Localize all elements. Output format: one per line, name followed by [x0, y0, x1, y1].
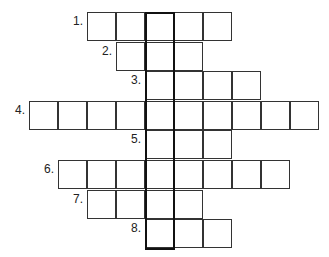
grid-cell[interactable] — [203, 71, 232, 100]
grid-cell[interactable] — [116, 42, 145, 71]
grid-cell[interactable] — [87, 190, 116, 219]
grid-cell[interactable] — [145, 190, 174, 219]
grid-cell[interactable] — [174, 219, 203, 248]
grid-cell[interactable] — [87, 101, 116, 130]
grid-cell[interactable] — [232, 101, 261, 130]
grid-cell[interactable] — [58, 101, 87, 130]
grid-cell[interactable] — [203, 219, 232, 248]
grid-cell[interactable] — [116, 101, 145, 130]
crossword-grid: 1.2.3.4.5.6.7.8. — [0, 0, 329, 257]
grid-cell[interactable] — [203, 12, 232, 41]
grid-cell[interactable] — [145, 71, 174, 100]
grid-cell[interactable] — [29, 101, 58, 130]
grid-cell[interactable] — [174, 12, 203, 41]
clue-number: 8. — [119, 221, 141, 235]
grid-cell[interactable] — [145, 101, 174, 130]
grid-cell[interactable] — [145, 160, 174, 189]
grid-cell[interactable] — [145, 12, 174, 41]
clue-number: 6. — [32, 162, 54, 176]
clue-number: 2. — [90, 44, 112, 58]
grid-cell[interactable] — [290, 101, 319, 130]
grid-cell[interactable] — [174, 130, 203, 159]
grid-cell[interactable] — [232, 160, 261, 189]
grid-cell[interactable] — [87, 160, 116, 189]
clue-number: 3. — [119, 73, 141, 87]
grid-cell[interactable] — [203, 160, 232, 189]
grid-cell[interactable] — [203, 101, 232, 130]
grid-cell[interactable] — [203, 130, 232, 159]
grid-cell[interactable] — [232, 71, 261, 100]
grid-cell[interactable] — [58, 160, 87, 189]
grid-cell[interactable] — [116, 12, 145, 41]
grid-cell[interactable] — [174, 101, 203, 130]
grid-cell[interactable] — [261, 160, 290, 189]
grid-cell[interactable] — [174, 190, 203, 219]
clue-number: 5. — [119, 132, 141, 146]
clue-number: 4. — [3, 103, 25, 117]
grid-cell[interactable] — [174, 71, 203, 100]
grid-cell[interactable] — [261, 101, 290, 130]
grid-cell[interactable] — [145, 130, 174, 159]
grid-cell[interactable] — [116, 190, 145, 219]
clue-number: 1. — [61, 14, 83, 28]
grid-cell[interactable] — [145, 219, 174, 248]
grid-cell[interactable] — [174, 42, 203, 71]
grid-cell[interactable] — [87, 12, 116, 41]
grid-cell[interactable] — [145, 42, 174, 71]
grid-cell[interactable] — [116, 160, 145, 189]
clue-number: 7. — [61, 192, 83, 206]
grid-cell[interactable] — [174, 160, 203, 189]
